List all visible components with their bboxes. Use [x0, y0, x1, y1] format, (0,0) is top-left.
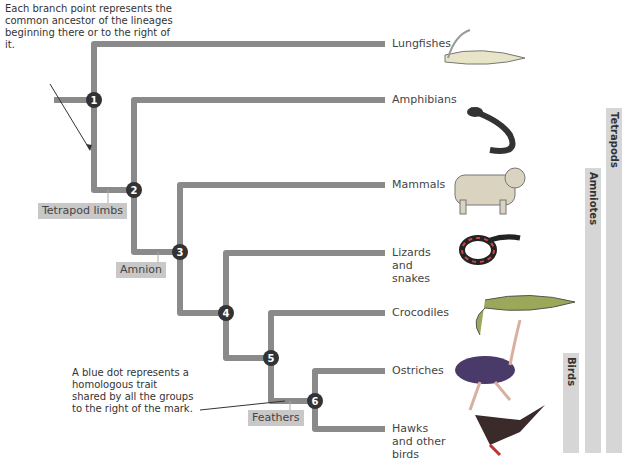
- clade-label: Birds: [566, 357, 577, 386]
- node-label: 2: [131, 185, 138, 196]
- clade-bar-amniotes: Amniotes: [585, 168, 601, 453]
- branch-node2-node3: [134, 190, 180, 252]
- blue-dot-note: A blue dot represents a homologous trait…: [72, 367, 194, 415]
- clade-label: Tetrapods: [609, 112, 620, 168]
- clade-label: Amniotes: [588, 172, 599, 225]
- branch-point-note: Each branch point represents the common …: [5, 3, 175, 51]
- trait-amnion: Amnion: [116, 262, 166, 278]
- node-1: 1: [86, 92, 102, 108]
- branch-node4-node5: [226, 313, 271, 358]
- taxon-label-ostriches: Ostriches: [392, 364, 444, 377]
- taxon-label-crocodiles: Crocodiles: [392, 306, 449, 319]
- node-4: 4: [218, 305, 234, 321]
- branch-amphibians: [134, 100, 385, 190]
- branch-mammals: [180, 185, 385, 252]
- pointer-line-blue-dot: [200, 401, 285, 410]
- node-label: 4: [223, 308, 230, 319]
- branch-lungfishes: [94, 44, 385, 100]
- branch-lizards: [226, 253, 385, 313]
- taxon-label-mammals: Mammals: [392, 178, 445, 191]
- branch-ostriches: [315, 371, 385, 401]
- crocodile-illustration: [476, 295, 575, 335]
- ostrich-illustration: [455, 320, 520, 410]
- node-label: 3: [177, 247, 184, 258]
- hawk-illustration: [475, 405, 545, 455]
- taxon-label-lizards-and-snakes: Lizards and snakes: [392, 246, 452, 285]
- taxon-label-amphibians: Amphibians: [392, 93, 457, 106]
- node-2: 2: [126, 182, 142, 198]
- trait-tetrapod-limbs: Tetrapod limbs: [38, 203, 127, 219]
- lungfish-illustration: [445, 30, 525, 64]
- branch-crocodiles: [271, 313, 385, 358]
- node-label: 6: [312, 396, 319, 407]
- taxon-label-hawks: Hawks and other birds: [392, 422, 452, 461]
- salamander-illustration: [467, 107, 513, 151]
- clade-bar-birds: Birds: [563, 353, 579, 453]
- pointer-arrow-branch-point: [50, 84, 90, 150]
- trait-feathers: Feathers: [248, 410, 304, 426]
- node-6: 6: [307, 393, 323, 409]
- branch-node1-node2: [94, 100, 134, 190]
- node-label: 5: [268, 353, 275, 364]
- branch-node3-node4: [180, 252, 226, 313]
- node-label: 1: [91, 95, 98, 106]
- snake-illustration: [462, 237, 520, 262]
- bobcat-illustration: [455, 168, 525, 214]
- taxon-label-lungfishes: Lungfishes: [392, 37, 451, 50]
- branch-hawks: [315, 401, 385, 429]
- clade-bar-tetrapods: Tetrapods: [606, 108, 622, 453]
- node-5: 5: [263, 350, 279, 366]
- node-3: 3: [172, 244, 188, 260]
- branch-node5-node6: [271, 358, 315, 401]
